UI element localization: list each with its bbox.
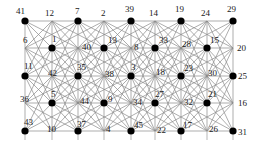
graph-node-label: 16 [238,99,247,108]
graph-node-label: 11 [24,62,33,71]
graph-node-label: 31 [238,128,247,137]
graph-node-dot[interactable] [151,44,158,51]
graph-node-label: 36 [20,95,29,104]
graph-node-label: 10 [47,125,56,134]
graph-node-label: 23 [184,64,193,73]
graph-node-label: 41 [16,7,25,16]
graph-node-dot[interactable] [21,72,28,79]
graph-node-label: 38 [105,70,114,79]
graph-node-label: 20 [237,44,246,53]
graph-figure: 4112723914192429614013833281520114235383… [0,0,258,154]
graph-node-label: 14 [149,9,158,18]
graph-node-label: 17 [183,121,192,130]
graph-node-dot[interactable] [21,17,28,24]
graph-node-label: 2 [101,9,106,18]
graph-node-label: 6 [23,36,28,45]
graph-node-label: 42 [48,69,57,78]
graph-node-dot[interactable] [127,17,134,24]
graph-node-label: 28 [182,40,191,49]
graph-node-label: 1 [52,35,57,44]
graph-node-label: 21 [208,90,217,99]
graph-node-label: 19 [175,5,184,14]
graph-node-label: 18 [156,68,165,77]
graph-node-label: 5 [51,90,56,99]
graph-node-label: 3 [131,63,136,72]
graph-edges-canvas [0,0,258,154]
graph-node-dot[interactable] [151,99,158,106]
graph-node-dot[interactable] [127,72,134,79]
graph-node-dot[interactable] [74,17,81,24]
graph-node-label: 34 [133,98,142,107]
graph-node-label: 24 [201,9,210,18]
graph-node-label: 9 [108,95,113,104]
graph-node-dot[interactable] [229,72,236,79]
graph-node-label: 15 [210,36,219,45]
graph-node-label: 7 [75,7,80,16]
graph-node-label: 30 [208,69,217,78]
graph-node-dot[interactable] [177,72,184,79]
graph-node-dot[interactable] [203,99,210,106]
graph-node-label: 29 [227,5,236,14]
graph-node-label: 22 [157,126,166,135]
graph-node-dot[interactable] [229,17,236,24]
graph-node-label: 25 [238,72,247,81]
graph-node-label: 12 [45,9,54,18]
graph-node-label: 32 [184,98,193,107]
graph-node-label: 44 [80,97,89,106]
graph-node-label: 45 [134,121,143,130]
graph-node-label: 4 [106,125,111,134]
graph-node-label: 8 [134,43,139,52]
graph-node-dot[interactable] [48,44,55,51]
graph-node-label: 35 [77,63,86,72]
graph-node-dot[interactable] [100,99,107,106]
graph-node-label: 26 [209,125,218,134]
graph-node-label: 43 [24,118,33,127]
graph-node-dot[interactable] [74,72,81,79]
graph-node-dot[interactable] [229,127,236,134]
graph-node-dot[interactable] [100,44,107,51]
graph-node-label: 33 [159,36,168,45]
graph-node-label: 40 [82,43,91,52]
graph-node-dot[interactable] [203,44,210,51]
graph-node-dot[interactable] [177,17,184,24]
graph-node-dot[interactable] [48,99,55,106]
graph-node-label: 13 [108,36,117,45]
graph-node-label: 37 [77,120,86,129]
graph-node-dot[interactable] [21,127,28,134]
graph-node-label: 27 [155,90,164,99]
graph-node-label: 39 [125,5,134,14]
